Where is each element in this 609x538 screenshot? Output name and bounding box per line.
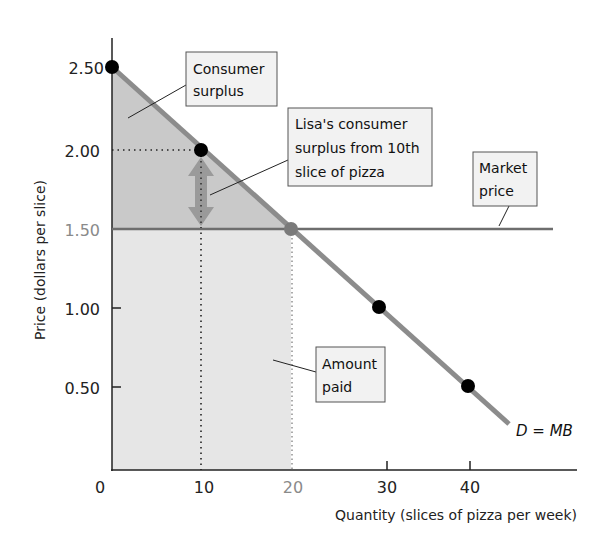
amount-paid-callout: Amount paid (316, 347, 385, 402)
point-0-250 (105, 60, 119, 74)
callout-text: Market (479, 160, 528, 176)
y-tick-label: 2.00 (64, 142, 100, 161)
point-10-200 (194, 143, 208, 157)
market-price-callout: Market price (473, 152, 537, 206)
x-tick-label: 0 (95, 478, 105, 497)
chart: 2.50 2.00 1.50 1.00 0.50 0 10 20 30 40 Q… (0, 0, 609, 538)
callout-text: Lisa's consumer (295, 116, 408, 132)
callout-text: price (479, 183, 514, 199)
equilibrium-point (284, 222, 298, 236)
y-axis-label: Price (dollars per slice) (32, 180, 48, 340)
y-tick-label: 1.50 (64, 221, 100, 240)
demand-curve-label: D = MB (516, 422, 573, 440)
y-tick-label: 1.00 (64, 300, 100, 319)
y-tick-label: 0.50 (64, 379, 100, 398)
x-tick-label: 30 (377, 478, 397, 497)
consumer-surplus-callout: Consumer surplus (186, 52, 277, 106)
callout-text: slice of pizza (295, 164, 385, 180)
x-axis-label: Quantity (slices of pizza per week) (335, 507, 577, 523)
x-tick-label: 40 (460, 478, 480, 497)
point-40-050 (461, 379, 475, 393)
callout-text: paid (322, 379, 352, 395)
point-30-100 (372, 300, 386, 314)
x-tick-label: 20 (283, 478, 303, 497)
market-price-leader (499, 206, 509, 226)
callout-text: Consumer (193, 61, 265, 77)
y-tick-label: 2.50 (68, 59, 104, 78)
lisa-surplus-callout: Lisa's consumer surplus from 10th slice … (288, 108, 432, 186)
callout-text: surplus from 10th (295, 140, 420, 156)
callout-text: surplus (193, 83, 244, 99)
x-tick-label: 10 (194, 478, 214, 497)
callout-text: Amount (322, 356, 378, 372)
